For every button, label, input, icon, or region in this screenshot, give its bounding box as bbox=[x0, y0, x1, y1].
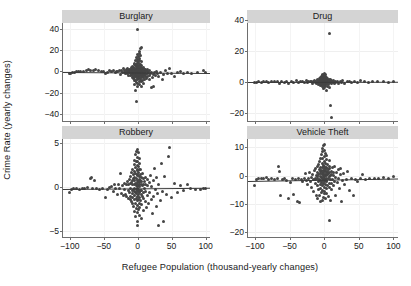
data-point bbox=[155, 176, 158, 179]
y-axis-tick bbox=[60, 50, 63, 51]
data-point bbox=[170, 196, 173, 199]
data-point bbox=[340, 200, 343, 203]
data-point bbox=[138, 162, 141, 165]
data-point bbox=[156, 192, 159, 195]
x-axis-tick-label: 0 bbox=[135, 242, 140, 251]
y-axis-tick bbox=[60, 187, 63, 188]
x-axis-tick-label: 100 bbox=[386, 242, 400, 251]
data-point bbox=[138, 206, 141, 209]
data-point bbox=[361, 173, 364, 176]
data-point bbox=[153, 167, 156, 170]
y-axis-title-text: Crime Rate (yearly changes) bbox=[2, 60, 12, 180]
gridline-horizontal bbox=[248, 204, 398, 205]
x-axis-tick bbox=[359, 121, 360, 124]
data-point bbox=[323, 143, 326, 146]
data-point bbox=[139, 168, 142, 171]
data-point bbox=[116, 193, 119, 196]
plot-panel: −2002040 bbox=[247, 23, 398, 122]
y-axis-tick-label: −5 bbox=[49, 227, 59, 236]
data-point bbox=[335, 171, 338, 174]
data-point bbox=[104, 196, 107, 199]
data-point bbox=[157, 183, 160, 186]
data-point bbox=[332, 184, 335, 187]
facet-panel-drug: Drug−2002040 bbox=[247, 10, 398, 122]
data-point bbox=[145, 206, 148, 209]
x-axis-tick-label: −100 bbox=[60, 242, 79, 251]
y-axis-tick-label: 5 bbox=[54, 138, 59, 147]
data-point bbox=[147, 202, 150, 205]
gridline-horizontal bbox=[248, 113, 398, 114]
plot-area bbox=[248, 139, 398, 237]
data-point bbox=[152, 85, 155, 88]
data-point bbox=[306, 183, 309, 186]
facet-panel-burglary: Burglary−40−2002040 bbox=[62, 10, 210, 122]
x-axis-tick bbox=[393, 237, 394, 240]
data-point bbox=[328, 32, 331, 35]
data-point bbox=[157, 224, 160, 227]
gridline-horizontal bbox=[63, 114, 210, 115]
data-point bbox=[136, 220, 139, 223]
data-point bbox=[137, 151, 140, 154]
x-axis-title: Refugee Population (thousand-yearly chan… bbox=[40, 262, 400, 272]
data-point bbox=[139, 54, 142, 57]
y-axis-tick bbox=[60, 143, 63, 144]
data-point bbox=[117, 183, 120, 186]
data-point bbox=[138, 50, 141, 53]
x-axis-tick-label: −50 bbox=[96, 242, 111, 251]
data-point bbox=[140, 203, 143, 206]
x-axis-tick bbox=[70, 237, 71, 240]
data-point bbox=[152, 195, 155, 198]
x-axis-tick bbox=[206, 237, 207, 240]
data-point bbox=[356, 180, 359, 183]
data-point bbox=[162, 220, 165, 223]
gridline-vertical bbox=[290, 23, 291, 121]
y-axis-tick-label: 0 bbox=[239, 171, 244, 180]
data-point bbox=[165, 193, 168, 196]
data-point bbox=[279, 194, 282, 197]
gridline-vertical bbox=[359, 139, 360, 237]
data-point bbox=[343, 183, 346, 186]
data-point bbox=[148, 181, 151, 184]
scatter-plot-figure: Crime Rate (yearly changes) Refugee Popu… bbox=[0, 0, 411, 286]
data-point bbox=[334, 194, 337, 197]
data-point bbox=[346, 170, 349, 173]
data-point bbox=[277, 165, 280, 168]
y-axis-tick-label: 0 bbox=[54, 182, 59, 191]
gridline-horizontal bbox=[248, 51, 398, 52]
data-point bbox=[328, 86, 331, 89]
facet-strip-label: Burglary bbox=[62, 10, 210, 23]
y-axis-title: Crime Rate (yearly changes) bbox=[0, 0, 14, 240]
y-axis-tick-label: −40 bbox=[44, 109, 59, 118]
data-point bbox=[168, 67, 171, 70]
data-point bbox=[330, 188, 333, 191]
data-point bbox=[148, 191, 151, 194]
y-axis-tick-label: 40 bbox=[234, 16, 244, 25]
x-axis-tick bbox=[206, 121, 207, 124]
data-point bbox=[352, 194, 355, 197]
x-axis-tick-label: 50 bbox=[354, 242, 364, 251]
data-point bbox=[292, 193, 295, 196]
y-axis-tick bbox=[60, 114, 63, 115]
y-axis-tick-label: 0 bbox=[54, 67, 59, 76]
gridline-vertical bbox=[393, 23, 394, 121]
facet-strip-label: Robbery bbox=[62, 126, 210, 139]
data-point bbox=[149, 174, 152, 177]
data-point bbox=[167, 155, 170, 158]
data-point bbox=[173, 75, 176, 78]
gridline-vertical bbox=[290, 139, 291, 237]
y-axis-tick bbox=[245, 82, 248, 83]
data-point bbox=[136, 28, 139, 31]
data-point bbox=[142, 209, 145, 212]
facet-strip-label: Vehicle Theft bbox=[247, 126, 398, 139]
gridline-vertical bbox=[255, 139, 256, 237]
gridline-vertical bbox=[393, 139, 394, 237]
data-point bbox=[142, 82, 145, 85]
data-point bbox=[328, 219, 331, 222]
data-point bbox=[253, 184, 256, 187]
y-axis-tick bbox=[245, 232, 248, 233]
data-point bbox=[338, 187, 341, 190]
y-axis-tick-label: −20 bbox=[229, 228, 244, 237]
data-point bbox=[137, 208, 140, 211]
x-axis-tick-label: 0 bbox=[322, 242, 327, 251]
data-point bbox=[152, 179, 155, 182]
